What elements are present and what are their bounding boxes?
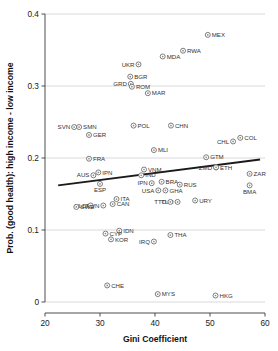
x-tick-label-50: 50 xyxy=(205,318,215,328)
plot-canvas: 00.10.20.30.4Prob. (good health): high i… xyxy=(0,0,278,351)
data-point-label-CAN: CAN xyxy=(117,200,130,207)
data-point-dot-CHL xyxy=(232,141,234,143)
data-point-dot-TUR xyxy=(177,201,179,203)
x-tick-label-30: 30 xyxy=(95,318,105,328)
y-tick-label-0.4: 0.4 xyxy=(27,9,39,19)
data-point-label-BMA: BMA xyxy=(243,188,257,195)
data-point-label-IRQ: IRQ xyxy=(139,238,150,245)
data-point-dot-CHE xyxy=(106,285,108,287)
x-tick-label-20: 20 xyxy=(40,318,50,328)
data-point-label-RUS: RUS xyxy=(184,181,197,188)
data-point-label-MEX: MEX xyxy=(212,31,225,38)
data-point-label-ZAR: ZAR xyxy=(254,170,267,177)
data-point-dot-CYP xyxy=(105,233,107,235)
data-point-dot-TTO xyxy=(170,201,172,203)
data-point-label-THA: THA xyxy=(174,231,187,238)
data-point-label-MAR: MAR xyxy=(152,89,166,96)
data-point-label-CHL: CHL xyxy=(217,138,230,145)
data-point-label-GER: GER xyxy=(93,131,107,138)
data-point-dot-GHA xyxy=(165,190,167,192)
data-point-dot-VNM xyxy=(143,169,145,171)
data-point-dot-IPN xyxy=(151,182,153,184)
data-point-dot-RWA xyxy=(182,50,184,52)
data-point-label-RWA: RWA xyxy=(187,47,202,54)
data-point-dot-RUS xyxy=(179,184,181,186)
data-point-label-SVN: SVN xyxy=(58,123,71,130)
data-point-label-GTM: GTM xyxy=(210,153,224,160)
data-point-dot-SMN xyxy=(78,126,80,128)
data-point-dot-UKR xyxy=(138,64,140,66)
data-point-dot-TWN xyxy=(102,205,104,207)
data-point-dot-CHN xyxy=(170,125,172,127)
data-point-dot-IRQ xyxy=(153,241,155,243)
data-point-dot-USA xyxy=(157,190,159,192)
data-point-dot-THA xyxy=(170,234,172,236)
data-point-label-UKR: UKR xyxy=(122,61,135,68)
data-point-dot-FRA xyxy=(88,158,90,160)
data-point-dot-MDA xyxy=(162,56,164,58)
data-point-label-FRA: FRA xyxy=(93,155,106,162)
data-point-dot-MYS xyxy=(157,293,159,295)
data-point-dot-ZMD xyxy=(215,167,217,169)
data-point-label-IDN: IDN xyxy=(123,227,134,234)
data-point-label-ROM: ROM xyxy=(136,83,150,90)
y-tick-label-0.2: 0.2 xyxy=(27,153,39,163)
y-axis-title: Prob. (good health): high income - low i… xyxy=(5,62,15,253)
data-point-label-ESP: ESP xyxy=(94,186,106,193)
y-tick-label-0.1: 0.1 xyxy=(27,225,39,235)
data-point-dot-ROM xyxy=(131,86,133,88)
data-point-label-CHN: CHN xyxy=(175,122,188,129)
y-tick-label-0.3: 0.3 xyxy=(27,81,39,91)
data-point-label-URY: URY xyxy=(199,197,212,204)
data-point-label-BGR: BGR xyxy=(134,73,148,80)
data-point-label-HKG: HKG xyxy=(220,292,233,299)
y-tick-label-0: 0 xyxy=(34,297,39,307)
data-point-dot-AUS xyxy=(93,174,95,176)
data-point-label-ZMD: ZMD xyxy=(199,164,213,171)
data-point-label-SWE: SWE xyxy=(80,203,94,210)
data-point-dot-IND xyxy=(140,174,142,176)
data-point-dot-GTM xyxy=(205,156,207,158)
data-point-label-TTO: TTO xyxy=(154,198,166,205)
data-point-label-KOR: KOR xyxy=(115,236,129,243)
data-point-dot-BRA xyxy=(161,181,163,183)
data-point-dot-SVN xyxy=(73,126,75,128)
data-point-label-POL: POL xyxy=(138,122,151,129)
data-point-dot-MLI xyxy=(153,149,155,151)
data-point-dot-HKG xyxy=(215,295,217,297)
data-point-dot-MEX xyxy=(207,34,209,36)
data-point-dot-COL xyxy=(239,137,241,139)
data-point-label-GRD: GRD xyxy=(113,80,127,87)
data-point-dot-GER xyxy=(88,134,90,136)
data-point-label-MYS: MYS xyxy=(162,290,175,297)
data-point-dot-ZAR xyxy=(249,173,251,175)
data-point-label-USA: USA xyxy=(142,187,155,194)
data-point-dot-MAR xyxy=(147,92,149,94)
data-point-dot-ESP xyxy=(99,183,101,185)
data-point-dot-URY xyxy=(194,200,196,202)
data-point-label-AUS: AUS xyxy=(77,171,90,178)
x-axis-title: Gini Coefficient xyxy=(123,334,187,344)
data-point-dot-CAN xyxy=(112,203,114,205)
x-tick-label-60: 60 xyxy=(260,318,270,328)
x-tick-label-40: 40 xyxy=(150,318,160,328)
data-point-label-CHE: CHE xyxy=(111,282,124,289)
data-point-label-IND: IND xyxy=(145,171,156,178)
scatter-plot-figure: 00.10.20.30.4Prob. (good health): high i… xyxy=(0,0,278,351)
data-point-dot-KOR xyxy=(110,239,112,241)
data-point-label-IPN: IPN xyxy=(102,169,112,176)
data-point-dot-BMA xyxy=(249,185,251,187)
data-point-label-MLI: MLI xyxy=(158,146,168,153)
data-point-label-IPN: IPN xyxy=(138,179,148,186)
data-point-dot-IPN xyxy=(98,172,100,174)
data-point-dot-SWE xyxy=(76,206,78,208)
data-point-label-GHA: GHA xyxy=(169,187,183,194)
data-point-label-ETH: ETH xyxy=(220,164,232,171)
data-point-label-MDA: MDA xyxy=(167,53,181,60)
data-point-label-COL: COL xyxy=(244,134,257,141)
data-point-dot-POL xyxy=(133,125,135,127)
data-point-dot-BGR xyxy=(129,76,131,78)
data-point-label-SMN: SMN xyxy=(83,123,97,130)
